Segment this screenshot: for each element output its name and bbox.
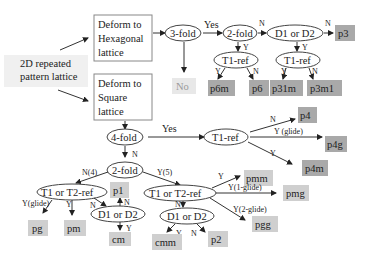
arrow-to-square [58, 90, 88, 101]
svg-text:p4g: p4g [327, 139, 344, 150]
svg-text:T1 or T2-ref: T1 or T2-ref [41, 187, 94, 198]
svg-text:pgg: pgg [255, 219, 272, 230]
node-3-fold: 3-fold [165, 25, 201, 41]
result-pmg: pmg [283, 185, 309, 201]
result-pgg: pgg [252, 216, 278, 232]
svg-text:T1 or T2-ref: T1 or T2-ref [149, 188, 202, 199]
result-p4g: p4g [325, 136, 347, 152]
svg-text:Y: Y [302, 43, 308, 52]
svg-text:N: N [270, 115, 276, 124]
result-p1: p1 [110, 182, 129, 198]
svg-text:Square: Square [98, 92, 127, 103]
svg-text:Deform to: Deform to [98, 78, 141, 89]
node-2-fold-square: 2-fold [107, 162, 143, 178]
svg-text:2D repeated: 2D repeated [20, 58, 72, 69]
node-d1-or-d2-hex: D1 or D2 [267, 25, 323, 41]
svg-text:Y (glide): Y (glide) [274, 127, 303, 136]
svg-text:Y: Y [218, 172, 224, 181]
svg-text:Y: Y [243, 43, 249, 52]
result-p4m: p4m [302, 160, 328, 176]
svg-text:Y(5): Y(5) [157, 168, 172, 177]
node-d1-or-d2-right: D1 or D2 [160, 208, 214, 224]
svg-text:T1-ref: T1-ref [284, 55, 311, 66]
node-t1-ref-a: T1-ref [214, 52, 258, 68]
result-p3m1: p3m1 [307, 80, 342, 96]
deform-hexagonal-box: Deform to Hexagonal lattice [94, 15, 152, 61]
svg-text:No: No [176, 81, 189, 92]
svg-text:Y: Y [66, 200, 72, 209]
svg-text:lattice: lattice [98, 106, 124, 117]
svg-text:pg: pg [32, 223, 43, 234]
svg-text:3-fold: 3-fold [170, 28, 196, 39]
svg-text:Yes: Yes [162, 123, 177, 134]
node-2-fold-hex: 2-fold [223, 25, 257, 41]
svg-text:Y: Y [270, 149, 276, 158]
svg-text:pmg: pmg [286, 188, 305, 199]
svg-text:D1 or D2: D1 or D2 [167, 211, 207, 222]
result-p4: p4 [298, 107, 317, 123]
result-cm: cm [109, 232, 131, 246]
svg-text:pattern lattice: pattern lattice [20, 71, 78, 82]
svg-text:cm: cm [112, 234, 125, 245]
svg-text:p6m: p6m [210, 83, 229, 94]
svg-text:Y: Y [281, 67, 287, 76]
svg-text:Hexagonal: Hexagonal [98, 33, 144, 44]
result-p3: p3 [335, 25, 355, 41]
svg-text:cmm: cmm [155, 237, 176, 248]
svg-text:4-fold: 4-fold [111, 132, 137, 143]
result-pg: pg [28, 220, 48, 236]
svg-text:p2: p2 [211, 234, 222, 245]
svg-text:N: N [253, 67, 259, 76]
result-p2: p2 [208, 231, 228, 247]
svg-text:2-fold: 2-fold [112, 165, 138, 176]
svg-text:p6: p6 [252, 83, 263, 94]
svg-text:N: N [175, 200, 181, 209]
svg-text:N: N [259, 19, 265, 28]
svg-text:D1 or D2: D1 or D2 [98, 209, 138, 220]
svg-text:T1-ref: T1-ref [212, 132, 239, 143]
result-p6: p6 [249, 80, 269, 96]
node-4-fold: 4-fold [107, 129, 143, 145]
svg-text:N(4): N(4) [82, 168, 97, 177]
svg-text:Deform to: Deform to [98, 19, 141, 30]
svg-text:N: N [191, 229, 197, 238]
lattice-classification-flowchart: 2D repeated pattern lattice Deform to He… [0, 0, 366, 263]
node-t1-ref-square: T1-ref [204, 129, 248, 145]
result-p31m: p31m [270, 80, 303, 96]
svg-text:N: N [132, 150, 138, 159]
svg-text:Y(glide): Y(glide) [22, 199, 49, 208]
svg-text:N: N [312, 67, 318, 76]
result-p6m: p6m [208, 80, 235, 96]
svg-text:Y(2-glide): Y(2-glide) [233, 205, 267, 214]
svg-text:p4: p4 [300, 110, 311, 121]
svg-text:p31m: p31m [272, 83, 296, 94]
arrow-to-hex [60, 38, 88, 50]
result-pm: pm [64, 220, 86, 236]
svg-text:p3m1: p3m1 [310, 83, 334, 94]
node-d1-or-d2-left: D1 or D2 [91, 206, 145, 222]
svg-text:2-fold: 2-fold [227, 28, 253, 39]
svg-text:p4m: p4m [305, 163, 324, 174]
start-node: 2D repeated pattern lattice [4, 55, 88, 87]
svg-text:N: N [90, 201, 96, 210]
svg-text:N: N [325, 19, 331, 28]
svg-text:D1 or D2: D1 or D2 [275, 28, 315, 39]
svg-text:p1: p1 [113, 185, 124, 196]
svg-text:pm: pm [67, 223, 80, 234]
svg-text:T1-ref: T1-ref [222, 55, 249, 66]
result-cmm: cmm [152, 234, 182, 250]
node-t1-or-t2-ref-right: T1 or T2-ref [144, 185, 216, 201]
svg-text:p3: p3 [338, 28, 349, 39]
node-t1-ref-b: T1-ref [276, 52, 320, 68]
svg-text:lattice: lattice [98, 47, 124, 58]
result-no: No [172, 78, 196, 94]
svg-text:Yes: Yes [204, 19, 219, 30]
svg-text:N: N [124, 198, 130, 207]
node-t1-or-t2-ref-left: T1 or T2-ref [37, 184, 107, 200]
deform-square-box: Deform to Square lattice [94, 74, 152, 120]
svg-text:Y(1-glide): Y(1-glide) [228, 183, 262, 192]
svg-text:Y: Y [126, 224, 132, 233]
svg-text:Y: Y [215, 67, 221, 76]
